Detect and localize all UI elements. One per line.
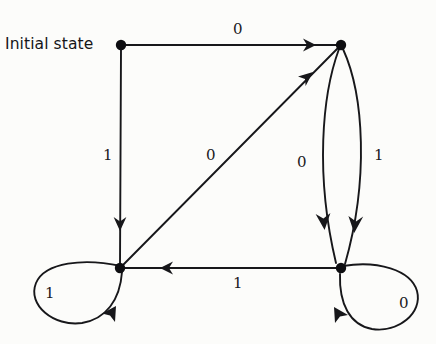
transition-top-edge: [126, 39, 338, 52]
transition-label-diagonal-edge: 0: [206, 148, 216, 163]
transition-left-edge: [114, 49, 127, 265]
state-node-bottom-right: [336, 263, 346, 273]
transition-label-right-self-loop: 0: [399, 296, 409, 311]
transition-right-inner-curve-path: [323, 49, 339, 263]
transition-diagonal-edge-arrowhead: [298, 72, 313, 86]
transition-label-top-edge: 0: [233, 22, 243, 37]
state-machine-diagram: Initial state 0 1 0 0 1 1 1 0: [0, 0, 436, 344]
transition-label-bottom-edge: 1: [233, 276, 243, 291]
initial-state-caption: Initial state: [5, 37, 93, 53]
transition-right-inner-curve: [316, 49, 339, 263]
transition-left-edge-path: [120, 49, 121, 265]
transition-right-outer-curve-path: [343, 49, 361, 264]
state-node-initial: [116, 40, 126, 50]
transition-label-left-edge: 1: [103, 148, 113, 163]
transition-label-right-outer-curve: 1: [374, 148, 384, 163]
state-node-top-right: [336, 40, 346, 50]
transition-label-right-inner-curve: 0: [297, 155, 307, 170]
transition-right-outer-curve: [343, 49, 363, 264]
state-node-bottom-left: [115, 263, 125, 273]
transition-bottom-edge: [124, 262, 338, 275]
transition-label-left-self-loop: 1: [45, 286, 55, 301]
